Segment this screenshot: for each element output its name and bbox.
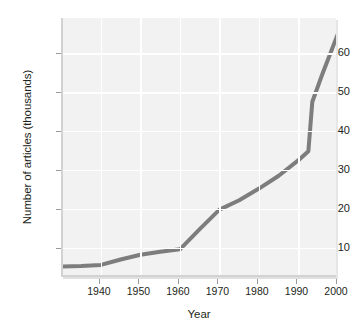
gridline-horizontal: [63, 131, 336, 133]
x-tick-label: 1940: [79, 286, 119, 297]
y-tick-mark: [56, 248, 61, 249]
y-tick-mark: [56, 53, 61, 54]
gridline-horizontal: [63, 92, 336, 94]
x-tick-label: 1990: [276, 286, 316, 297]
y-axis-title-text: Number of articles (thousands): [21, 70, 33, 224]
x-axis-title: Year: [61, 308, 337, 320]
x-tick-mark: [257, 279, 258, 284]
x-tick-mark: [138, 279, 139, 284]
y-tick-mark: [56, 92, 61, 93]
gridline-horizontal: [63, 248, 336, 250]
x-tick-mark: [336, 279, 337, 284]
x-tick-mark: [296, 279, 297, 284]
y-tick-mark: [56, 209, 61, 210]
data-series-line: [63, 18, 336, 277]
y-tick-mark: [56, 170, 61, 171]
gridline-horizontal: [63, 170, 336, 172]
gridline-vertical: [298, 18, 300, 275]
gridline-vertical: [140, 18, 142, 275]
y-tick-label: 20: [304, 203, 358, 214]
gridline-vertical: [180, 18, 182, 275]
y-tick-label: 10: [304, 242, 358, 253]
x-tick-label: 1970: [197, 286, 237, 297]
y-axis-title: Number of articles (thousands): [18, 0, 36, 334]
gridline-vertical: [259, 18, 261, 275]
x-tick-mark: [217, 279, 218, 284]
gridline-horizontal: [63, 209, 336, 211]
x-tick-mark: [178, 279, 179, 284]
x-tick-label: 2000: [316, 286, 356, 297]
y-tick-label: 40: [304, 125, 358, 136]
x-tick-label: 1980: [237, 286, 277, 297]
y-tick-label: 60: [304, 47, 358, 58]
x-tick-label: 1960: [158, 286, 198, 297]
x-tick-mark: [99, 279, 100, 284]
gridline-vertical: [219, 18, 221, 275]
y-tick-mark: [56, 131, 61, 132]
plot-area: [61, 18, 336, 277]
line-chart: Number of articles (thousands) Year 1020…: [0, 0, 358, 334]
gridline-vertical: [101, 18, 103, 275]
y-tick-label: 30: [304, 164, 358, 175]
x-tick-label: 1950: [118, 286, 158, 297]
y-tick-label: 50: [304, 86, 358, 97]
gridline-horizontal: [63, 53, 336, 55]
